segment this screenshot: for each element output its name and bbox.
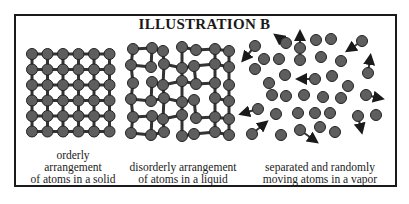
caption-line: of atoms in a solid: [18, 173, 128, 185]
caption-line: disorderly arrangement: [118, 161, 248, 173]
caption-line: arrangement: [18, 161, 128, 173]
caption-vapor: separated and randomly moving atoms in a…: [250, 161, 390, 185]
caption-liquid: disorderly arrangement of atoms in a liq…: [118, 161, 248, 185]
caption-line: separated and randomly: [250, 161, 390, 173]
caption-line: orderly: [18, 149, 128, 161]
caption-solid: orderly arrangement of atoms in a solid: [18, 149, 128, 185]
solid-lattice: [27, 49, 116, 138]
caption-line: of atoms in a liquid: [118, 173, 248, 185]
caption-line: moving atoms in a vapor: [250, 173, 390, 185]
liquid-network: [126, 42, 235, 142]
vapor-atoms: [244, 34, 382, 141]
